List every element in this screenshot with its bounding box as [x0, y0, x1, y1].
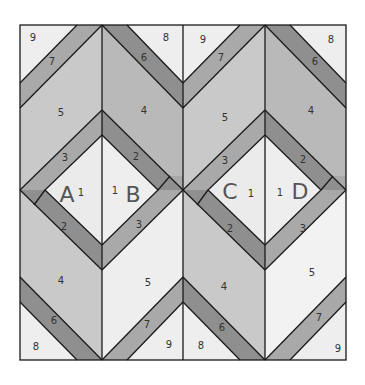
piece-label: 8: [328, 34, 334, 45]
piece-label: 2: [133, 151, 139, 162]
piece-label: 9: [30, 32, 36, 43]
section-letter: D: [292, 179, 309, 204]
piece-label: 5: [309, 267, 315, 278]
section-d: 8 6 4 2 1 D 3 5 7 9: [265, 25, 346, 360]
section-letter: A: [59, 182, 74, 207]
piece-label: 8: [198, 340, 204, 351]
piece-label: 4: [308, 105, 314, 116]
section-letter: C: [222, 179, 237, 204]
piece-label: 1: [277, 187, 283, 198]
piece-label: 6: [51, 315, 57, 326]
piece-label: 3: [222, 155, 228, 166]
section-c: 9 7 5 3 C 1 2 4 6 8: [183, 25, 265, 360]
piece-label: 9: [200, 34, 206, 45]
section-a: 9 7 5 3 A 1 2 4 6 8: [20, 25, 102, 360]
piece-label: 1: [112, 185, 118, 196]
piece-label: 7: [49, 56, 55, 67]
section-letter: B: [125, 182, 140, 207]
quilt-pattern-diagram: 9 7 5 3 A 1 2 4 6 8: [0, 0, 365, 385]
piece-label: 3: [300, 223, 306, 234]
piece-label: 2: [227, 223, 233, 234]
piece-label: 5: [145, 277, 151, 288]
piece-label: 7: [144, 319, 150, 330]
piece-label: 9: [166, 339, 172, 350]
section-b: 8 6 4 2 1 B 3 5 7 9: [102, 25, 183, 360]
piece-label: 6: [141, 52, 147, 63]
piece-label: 4: [58, 275, 64, 286]
piece-label: 2: [300, 154, 306, 165]
piece-label: 8: [33, 341, 39, 352]
piece-label: 7: [218, 52, 224, 63]
piece-label: 5: [58, 107, 64, 118]
piece-label: 7: [316, 312, 322, 323]
piece-label: 3: [62, 152, 68, 163]
piece-label: 5: [222, 112, 228, 123]
piece-label: 4: [141, 105, 147, 116]
piece-label: 1: [78, 187, 84, 198]
piece-label: 6: [312, 56, 318, 67]
piece-label: 6: [219, 322, 225, 333]
piece-label: 3: [136, 219, 142, 230]
piece-label: 1: [248, 188, 254, 199]
piece-label: 4: [221, 281, 227, 292]
piece-label: 9: [335, 343, 341, 354]
piece-label: 8: [163, 32, 169, 43]
piece-label: 2: [61, 221, 67, 232]
